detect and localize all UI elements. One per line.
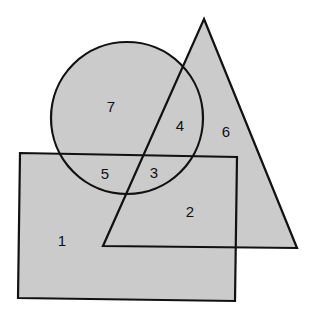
venn-diagram: 1 2 3 4 5 6 7	[0, 0, 314, 318]
region-label-6: 6	[222, 123, 230, 140]
region-label-3: 3	[150, 164, 158, 181]
diagram-canvas: 1 2 3 4 5 6 7	[0, 0, 314, 318]
region-label-5: 5	[101, 165, 109, 182]
region-label-7: 7	[107, 98, 115, 115]
region-label-2: 2	[186, 203, 194, 220]
region-label-4: 4	[176, 117, 184, 134]
region-label-1: 1	[58, 232, 66, 249]
shape-fills	[18, 19, 297, 301]
